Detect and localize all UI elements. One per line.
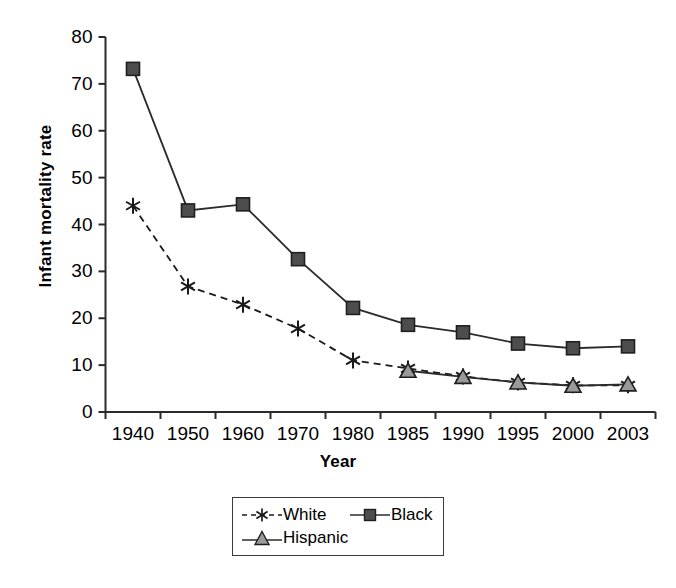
chart-legend: White Black Hispanic bbox=[232, 497, 444, 556]
plot-area: 01020304050607080 1940195019601970198019… bbox=[0, 0, 676, 440]
y-axis-title: Infant mortality rate bbox=[36, 86, 56, 326]
series-black bbox=[127, 62, 635, 354]
y-tick-label: 60 bbox=[51, 121, 93, 140]
y-tick-label: 70 bbox=[51, 74, 93, 93]
data-point-square bbox=[622, 340, 635, 353]
y-tick-label: 80 bbox=[51, 27, 93, 46]
data-point-square bbox=[567, 342, 580, 355]
data-point-asterisk bbox=[236, 297, 250, 313]
data-point-square bbox=[237, 198, 250, 211]
plot-canvas bbox=[0, 0, 676, 440]
legend-row-1: White Black bbox=[241, 503, 435, 526]
data-point-square bbox=[402, 318, 415, 331]
y-tick-label: 40 bbox=[51, 215, 93, 234]
x-tick-label: 2003 bbox=[593, 424, 663, 443]
legend-item-hispanic[interactable]: Hispanic bbox=[241, 528, 349, 548]
legend-item-black[interactable]: Black bbox=[349, 505, 433, 525]
data-point-asterisk bbox=[291, 321, 305, 337]
data-point-square bbox=[347, 301, 360, 314]
data-point-square bbox=[182, 204, 195, 217]
series-white bbox=[126, 198, 635, 394]
data-point-square bbox=[127, 62, 140, 75]
data-point-square bbox=[457, 326, 470, 339]
legend-item-white[interactable]: White bbox=[241, 505, 349, 525]
y-tick-label: 20 bbox=[51, 308, 93, 327]
series-line bbox=[133, 206, 628, 386]
data-point-square bbox=[292, 253, 305, 266]
data-point-square bbox=[512, 337, 525, 350]
legend-label-white: White bbox=[283, 506, 326, 523]
data-point-asterisk bbox=[126, 198, 140, 214]
axis-lines bbox=[99, 37, 656, 419]
legend-label-hispanic: Hispanic bbox=[283, 529, 348, 546]
y-tick-label: 50 bbox=[51, 168, 93, 187]
y-tick-label: 30 bbox=[51, 261, 93, 280]
legend-row-2: Hispanic bbox=[241, 526, 435, 549]
black-series-key-icon bbox=[349, 505, 391, 525]
white-series-key-icon bbox=[241, 505, 283, 525]
x-axis-title: Year bbox=[0, 452, 676, 472]
y-tick-label: 10 bbox=[51, 355, 93, 374]
series-hispanic bbox=[400, 363, 636, 392]
hispanic-series-key-icon bbox=[241, 528, 283, 548]
data-point-asterisk bbox=[346, 352, 360, 368]
legend-label-black: Black bbox=[391, 506, 433, 523]
series-line bbox=[133, 69, 628, 348]
data-series-layer bbox=[126, 62, 636, 393]
y-tick-label: 0 bbox=[51, 402, 93, 421]
infant-mortality-chart: 01020304050607080 1940195019601970198019… bbox=[0, 0, 676, 588]
